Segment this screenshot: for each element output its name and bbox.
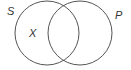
set-p-circle <box>48 1 112 65</box>
set-p-label: P <box>115 9 123 21</box>
set-s-circle <box>15 1 79 65</box>
venn-diagram: S P X <box>0 0 131 70</box>
set-s-label: S <box>7 5 15 17</box>
region-x-label: X <box>28 27 37 39</box>
